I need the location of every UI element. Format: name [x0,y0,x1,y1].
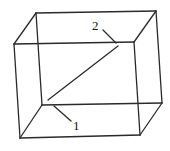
edge-back-right [156,11,162,103]
edge-back-left [36,13,42,105]
edge-connect-bottom-right [140,103,162,135]
edge-front-right [134,42,140,135]
box-diagram: 1 2 [0,0,170,151]
label-1: 1 [73,118,80,133]
box-diagram-svg: 1 2 [0,0,170,151]
edge-connect-bottom-left [20,105,42,138]
edge-back-top [36,11,156,13]
edge-front-bottom [20,135,140,138]
edge-back-bottom [42,103,162,105]
leader-line-2 [103,30,116,43]
edge-front-left [14,44,20,138]
leader-line-1 [54,106,71,121]
edge-connect-top-right [134,11,156,42]
label-2: 2 [92,18,99,33]
edge-connect-top-left [14,13,36,44]
inner-diagonal [48,46,118,100]
